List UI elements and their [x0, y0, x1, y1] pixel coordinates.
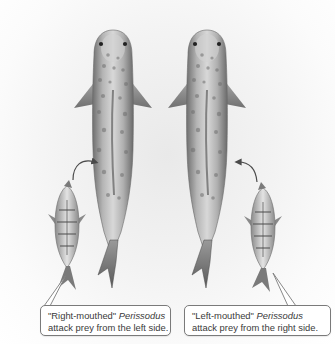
callout-left-mouthed: "Left-mouthed" Perissodus attack prey fr… [184, 305, 331, 336]
predator-fish-left-mouthed [244, 182, 282, 292]
callout-genus: Perissodus [257, 310, 303, 321]
callout-line-1: "Left-mouthed" Perissodus [192, 310, 324, 322]
figure-stage: "Right-mouthed" Perissodus attack prey f… [0, 0, 335, 344]
callout-right-mouthed: "Right-mouthed" Perissodus attack prey f… [40, 305, 171, 336]
callout-line-1: "Right-mouthed" Perissodus [48, 310, 164, 322]
curved-arrow-icon [238, 162, 257, 182]
callout-quote: "Right-mouthed" [48, 310, 116, 321]
callout-genus: Perissodus [119, 310, 165, 321]
callout-quote: "Left-mouthed" [192, 310, 254, 321]
callout-line-2: attack prey from the right side. [192, 322, 324, 334]
prey-fish-right [168, 30, 246, 288]
fish-illustration [0, 0, 335, 344]
callout-pointer [44, 275, 66, 306]
predator-fish-right-mouthed [48, 180, 86, 290]
callout-pointer [273, 273, 296, 306]
curved-arrow-icon [73, 161, 95, 180]
prey-fish-left [74, 30, 152, 288]
callout-line-2: attack prey from the left side. [48, 322, 164, 334]
